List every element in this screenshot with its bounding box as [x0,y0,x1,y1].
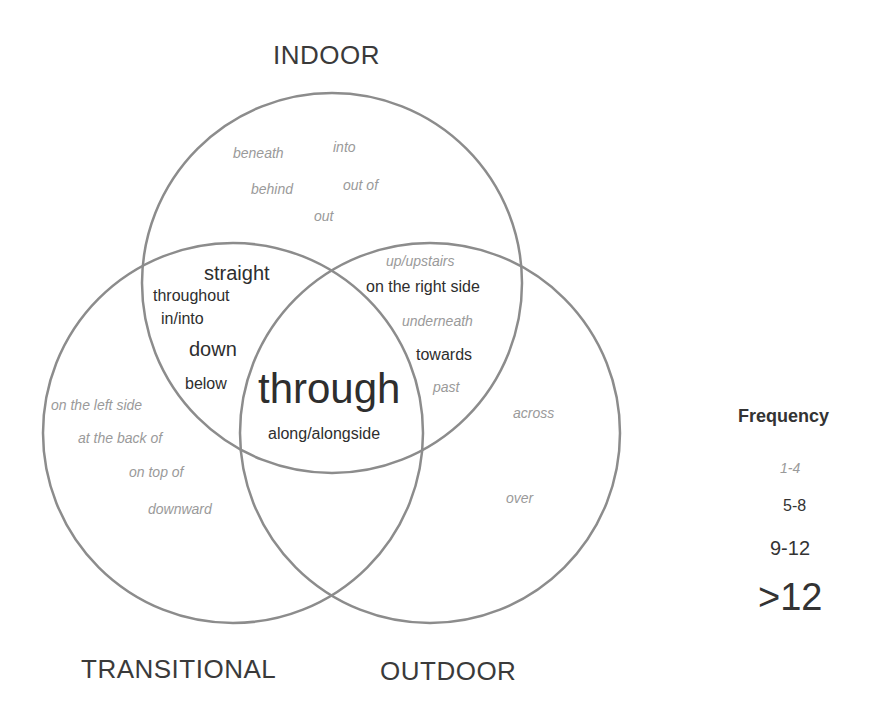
word-towards: towards [416,347,472,363]
legend-level-2: 5-8 [783,498,806,514]
word-into: into [333,140,356,154]
legend-level-4: >12 [758,578,822,616]
word-beneath: beneath [233,146,284,160]
word-below: below [185,376,227,392]
word-underneath: underneath [402,314,473,328]
word-on-top-of: on top of [129,465,184,479]
set-title-outdoor: OUTDOOR [380,658,516,684]
set-title-indoor: INDOOR [273,42,380,68]
legend-level-1: 1-4 [780,461,800,475]
word-throughout: throughout [153,288,230,304]
word-on-the-right-side: on the right side [366,279,480,295]
word-straight: straight [204,263,270,283]
word-out: out [314,209,333,223]
word-over: over [506,491,533,505]
word-behind: behind [251,182,293,196]
set-title-transitional: TRANSITIONAL [81,656,276,682]
legend-level-3: 9-12 [770,538,810,558]
word-up-upstairs: up/upstairs [386,254,454,268]
word-down: down [189,339,237,359]
word-along-alongside: along/alongside [268,426,380,442]
word-out-of: out of [343,178,378,192]
word-through: through [258,368,400,410]
word-across: across [513,406,554,420]
word-past: past [433,380,459,394]
word-in-into: in/into [161,311,204,327]
word-on-the-left-side: on the left side [51,398,142,412]
word-at-the-back-of: at the back of [78,431,162,445]
word-downward: downward [148,502,212,516]
legend-title: Frequency [738,407,829,425]
